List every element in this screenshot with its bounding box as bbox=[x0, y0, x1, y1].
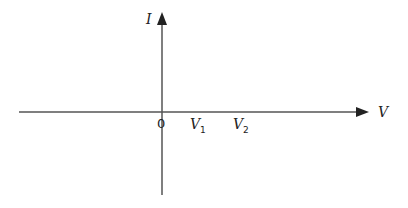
y-axis-arrow-icon bbox=[157, 12, 167, 25]
y-axis-label: I bbox=[145, 11, 152, 27]
x-axis-arrow-icon bbox=[356, 107, 369, 117]
tick-label-v2: V 2 bbox=[233, 116, 249, 135]
iv-axes-diagram: I V 0 V 1 V 2 bbox=[0, 0, 408, 208]
svg-text:1: 1 bbox=[200, 125, 206, 135]
svg-text:2: 2 bbox=[243, 125, 249, 135]
origin-label: 0 bbox=[157, 116, 165, 131]
tick-label-v1: V 1 bbox=[190, 116, 206, 135]
x-axis-label: V bbox=[378, 104, 390, 120]
